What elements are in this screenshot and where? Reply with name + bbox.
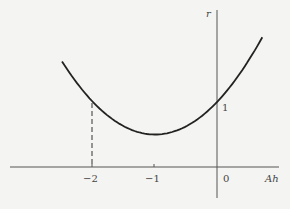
tick-label-0: 0 [223,174,229,184]
y-axis-label: r [206,9,211,19]
stability-curve-figure: r 1 −2 −1 0 Ah [0,0,290,209]
tick-label-neg1: −1 [145,174,160,184]
x-axis-label: Ah [265,174,279,184]
tick-label-neg2: −2 [83,174,98,184]
tick-label-1: 1 [222,103,228,113]
